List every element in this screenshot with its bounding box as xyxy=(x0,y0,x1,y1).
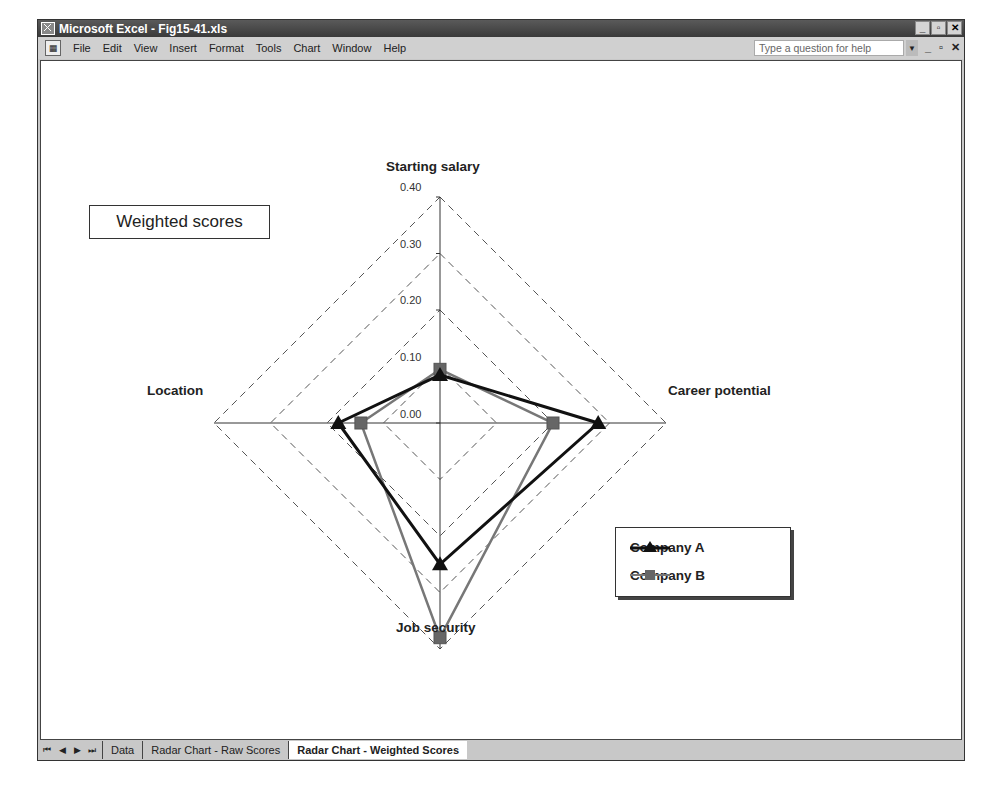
excel-app-icon xyxy=(41,22,55,35)
menu-insert[interactable]: Insert xyxy=(163,42,203,54)
restore-button[interactable]: ▫ xyxy=(931,21,946,35)
last-sheet-button[interactable]: ⏭ xyxy=(86,745,98,756)
minimize-button[interactable]: _ xyxy=(915,21,930,35)
menu-view[interactable]: View xyxy=(128,42,164,54)
legend-item-company-a: Company A xyxy=(630,540,705,555)
menu-window[interactable]: Window xyxy=(326,42,377,54)
tick-label: 0.20 xyxy=(400,294,421,306)
tab-radar-raw-scores[interactable]: Radar Chart - Raw Scores xyxy=(142,741,288,759)
close-button[interactable]: ✕ xyxy=(947,21,962,35)
chevron-down-icon[interactable]: ▼ xyxy=(906,40,918,56)
help-search-input[interactable]: Type a question for help xyxy=(754,40,904,56)
menu-edit[interactable]: Edit xyxy=(97,42,128,54)
first-sheet-button[interactable]: ⏮ xyxy=(41,745,53,756)
tick-label: 0.30 xyxy=(400,238,421,250)
tab-radar-weighted-scores[interactable]: Radar Chart - Weighted Scores xyxy=(288,741,467,759)
axis-label-job-security: Job security xyxy=(396,620,476,635)
prev-sheet-button[interactable]: ◀ xyxy=(56,745,68,755)
menu-chart[interactable]: Chart xyxy=(287,42,326,54)
tab-data[interactable]: Data xyxy=(102,741,142,759)
tick-label: 0.40 xyxy=(400,181,421,193)
window-title: Microsoft Excel - Fig15-41.xls xyxy=(59,22,227,36)
legend-item-company-b: Company B xyxy=(630,568,705,583)
sheet-tab-bar: ⏮ ◀ ▶ ⏭ Data Radar Chart - Raw Scores Ra… xyxy=(38,740,964,760)
menu-format[interactable]: Format xyxy=(203,42,250,54)
excel-window: Microsoft Excel - Fig15-41.xls _ ▫ ✕ ▦ F… xyxy=(37,19,965,761)
chart-legend[interactable]: Company A Company B xyxy=(615,527,791,597)
radar-chart xyxy=(41,61,961,739)
axis-label-starting-salary: Starting salary xyxy=(386,159,480,174)
menu-file[interactable]: File xyxy=(67,42,97,54)
chart-sheet[interactable]: Weighted scores Starting salary Career p… xyxy=(40,60,962,740)
menu-tools[interactable]: Tools xyxy=(250,42,288,54)
chart-title[interactable]: Weighted scores xyxy=(89,205,270,239)
tick-label: 0.00 xyxy=(400,408,421,420)
triangle-marker-icon xyxy=(630,540,670,554)
axis-label-location: Location xyxy=(147,383,203,398)
title-bar: Microsoft Excel - Fig15-41.xls _ ▫ ✕ xyxy=(38,20,964,37)
doc-minimize-button[interactable]: _ xyxy=(925,41,931,54)
square-marker-icon xyxy=(630,568,670,582)
doc-restore-button[interactable]: ▫ xyxy=(939,41,943,54)
menu-help[interactable]: Help xyxy=(377,42,412,54)
document-icon[interactable]: ▦ xyxy=(45,40,61,56)
axis-label-career-potential: Career potential xyxy=(668,383,771,398)
doc-close-button[interactable]: ✕ xyxy=(951,41,960,54)
tick-label: 0.10 xyxy=(400,351,421,363)
next-sheet-button[interactable]: ▶ xyxy=(71,745,83,755)
menu-bar: ▦ File Edit View Insert Format Tools Cha… xyxy=(38,37,964,59)
